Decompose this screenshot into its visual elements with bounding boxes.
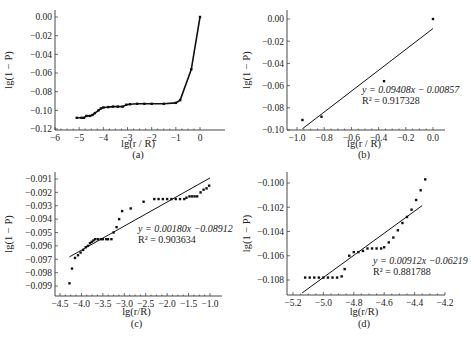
panel-caption: (a) bbox=[132, 149, 144, 161]
panel-caption: (b) bbox=[358, 149, 371, 161]
data-point bbox=[142, 201, 144, 203]
data-point bbox=[301, 119, 303, 121]
panel-caption: (d) bbox=[358, 318, 371, 330]
data-point bbox=[188, 195, 190, 197]
y-tick-label: −0.102 bbox=[257, 203, 284, 213]
data-point bbox=[82, 249, 84, 251]
axes-frame bbox=[55, 10, 225, 130]
data-point bbox=[375, 247, 377, 249]
panel-caption: (c) bbox=[131, 318, 143, 330]
y-tick-label: −0.04 bbox=[30, 50, 52, 60]
data-point bbox=[110, 238, 112, 240]
figure-canvas: −6−5−4−3−2−100.00−0.02−0.04−0.06−0.08−0.… bbox=[0, 0, 471, 341]
data-point bbox=[170, 198, 172, 200]
y-axis-label: lg(1 − P) bbox=[241, 214, 253, 252]
x-tick-label: −4.4 bbox=[406, 298, 423, 308]
data-point bbox=[71, 267, 73, 269]
x-tick-label: −4.5 bbox=[51, 299, 68, 309]
chart-panel-a: −6−5−4−3−2−100.00−0.02−0.04−0.06−0.08−0.… bbox=[3, 10, 225, 161]
data-point bbox=[76, 117, 78, 119]
data-point bbox=[320, 115, 322, 117]
data-point bbox=[371, 247, 373, 249]
y-tick-label: −0.106 bbox=[257, 251, 284, 261]
data-point bbox=[107, 106, 109, 108]
data-point bbox=[366, 247, 368, 249]
data-point bbox=[130, 207, 132, 209]
data-point bbox=[136, 103, 138, 105]
x-tick-label: −1 bbox=[171, 133, 181, 143]
data-point bbox=[112, 105, 114, 107]
y-axis-label: lg(1 − P) bbox=[3, 51, 15, 89]
x-axis-label: lg(r/R) bbox=[350, 306, 379, 318]
data-point bbox=[313, 276, 315, 278]
r-squared: R² = 0.881788 bbox=[373, 266, 431, 277]
y-tick-label: −0.08 bbox=[30, 87, 52, 97]
data-point bbox=[125, 104, 127, 106]
data-point bbox=[118, 218, 120, 220]
data-point bbox=[388, 241, 390, 243]
y-tick-label: −0.108 bbox=[257, 275, 284, 285]
data-point bbox=[318, 276, 320, 278]
x-tick-label: 0 bbox=[198, 133, 203, 143]
data-point bbox=[97, 109, 99, 111]
data-point bbox=[205, 187, 207, 189]
data-point bbox=[100, 238, 102, 240]
y-tick-label: −0.092 bbox=[25, 188, 52, 198]
data-point bbox=[94, 238, 96, 240]
r-squared: R² = 0.903634 bbox=[138, 234, 196, 245]
data-point bbox=[150, 103, 152, 105]
data-point bbox=[94, 112, 96, 114]
x-tick-label: −4 bbox=[98, 133, 108, 143]
y-tick-label: −0.098 bbox=[25, 268, 52, 278]
data-point bbox=[336, 276, 338, 278]
data-point bbox=[79, 251, 81, 253]
data-point bbox=[304, 276, 306, 278]
data-point bbox=[343, 268, 345, 270]
data-point bbox=[102, 106, 104, 108]
data-point bbox=[397, 229, 399, 231]
data-point bbox=[85, 115, 87, 117]
y-tick-label: −0.095 bbox=[25, 228, 52, 238]
data-point bbox=[196, 195, 198, 197]
chart-panel-c: −4.5−4.0−3.5−3.0−2.5−2.0−1.5−1.0−0.091−0… bbox=[3, 172, 233, 330]
data-point bbox=[348, 255, 350, 257]
y-tick-label: 0.00 bbox=[35, 12, 52, 22]
y-tick-label: −0.093 bbox=[25, 201, 52, 211]
data-point bbox=[157, 198, 159, 200]
y-tick-label: −0.100 bbox=[257, 178, 284, 188]
x-tick-label: −1.0 bbox=[201, 299, 218, 309]
y-axis-label: lg(1 − P) bbox=[241, 51, 253, 89]
y-tick-label: −0.104 bbox=[257, 227, 284, 237]
x-tick-label: −3.5 bbox=[94, 299, 111, 309]
data-point bbox=[91, 114, 93, 116]
data-point bbox=[77, 254, 79, 256]
y-axis-label: lg(1 − P) bbox=[3, 215, 15, 253]
x-tick-label: −5.2 bbox=[284, 298, 301, 308]
y-tick-label: −0.06 bbox=[262, 81, 284, 91]
data-point bbox=[185, 197, 187, 199]
data-point bbox=[406, 216, 408, 218]
data-point bbox=[153, 198, 155, 200]
data-point bbox=[102, 238, 104, 240]
data-point bbox=[193, 195, 195, 197]
r-squared: R² = 0.917328 bbox=[362, 95, 420, 106]
chart-panel-d: −5.2−5.0−4.8−4.6−4.4−4.2−0.100−0.102−0.1… bbox=[241, 172, 468, 330]
y-tick-label: −0.096 bbox=[25, 241, 52, 251]
axes-frame bbox=[287, 10, 445, 130]
y-tick-label: −0.08 bbox=[262, 103, 284, 113]
y-tick-label: −0.099 bbox=[25, 281, 52, 291]
y-tick-label: 0.00 bbox=[267, 14, 284, 24]
data-point bbox=[179, 99, 181, 101]
x-tick-label: −2.0 bbox=[159, 299, 176, 309]
x-tick-label: −5 bbox=[74, 133, 84, 143]
y-tick-label: −0.091 bbox=[25, 174, 52, 184]
y-tick-label: −0.02 bbox=[30, 31, 52, 41]
data-point bbox=[115, 226, 117, 228]
x-tick-label: −5.0 bbox=[315, 298, 332, 308]
fit-equation: y = 0.00912x −0.06219 bbox=[372, 255, 468, 266]
chart-panel-b: −1.0−0.8−0.6−0.4−0.20.00.00−0.02−0.04−0.… bbox=[241, 10, 460, 161]
y-tick-label: −0.097 bbox=[25, 255, 52, 265]
data-point bbox=[121, 210, 123, 212]
x-tick-label: −4.2 bbox=[436, 298, 453, 308]
data-point bbox=[357, 251, 359, 253]
